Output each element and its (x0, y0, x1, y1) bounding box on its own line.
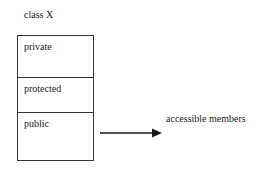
accessible-members-label: accessible members (166, 113, 246, 124)
class-box: private protected public (17, 35, 94, 161)
class-title: class X (24, 9, 53, 20)
section-private: private (18, 36, 93, 78)
section-public: public (18, 113, 93, 161)
section-protected: protected (18, 78, 93, 113)
section-public-label: public (24, 118, 49, 129)
section-private-label: private (24, 41, 52, 52)
arrow-right-icon (100, 127, 164, 139)
section-protected-label: protected (24, 83, 61, 94)
